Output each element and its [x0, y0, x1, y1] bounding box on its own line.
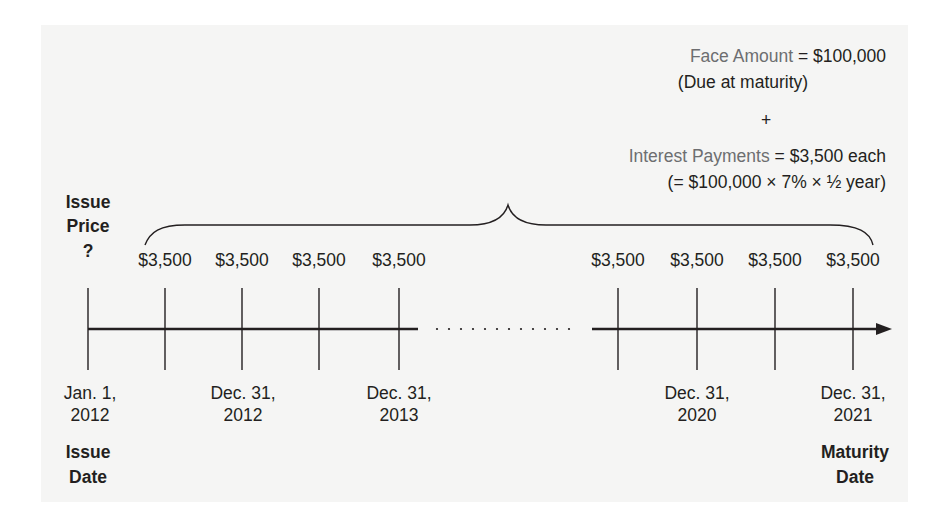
issue-date-label: Issue Date	[66, 441, 111, 488]
date-label-maturity: Dec. 31, 2021	[820, 382, 885, 426]
date-year: 2020	[664, 404, 729, 426]
payment-amount: $3,500	[748, 250, 802, 271]
issue-price-label-1: Issue	[66, 191, 111, 213]
date-year: 2012	[210, 404, 275, 426]
face-amount-line: Face Amount = $100,000	[690, 46, 886, 67]
face-amount-value: = $100,000	[798, 46, 886, 66]
payment-amount: $3,500	[215, 250, 269, 271]
date-year: 2012	[64, 404, 117, 426]
payment-amount: $3,500	[138, 250, 192, 271]
brace-icon	[145, 205, 873, 245]
maturity-date-label: Maturity Date	[821, 441, 889, 488]
date-line: Dec. 31,	[366, 382, 431, 404]
date-line: Dec. 31,	[664, 382, 729, 404]
payment-amount: $3,500	[372, 250, 426, 271]
maturity-date-line1: Maturity	[821, 441, 889, 463]
issue-date-line2: Date	[66, 466, 111, 488]
face-amount-note: (Due at maturity)	[678, 72, 808, 93]
interest-payments-value: = $3,500 each	[775, 146, 886, 166]
arrow-head-icon	[876, 323, 892, 335]
interest-payments-label: Interest Payments	[629, 146, 770, 166]
date-year: 2013	[366, 404, 431, 426]
maturity-date-line2: Date	[821, 466, 889, 488]
date-line: Dec. 31,	[210, 382, 275, 404]
payment-amount: $3,500	[670, 250, 724, 271]
date-line: Dec. 31,	[820, 382, 885, 404]
date-line: Jan. 1,	[64, 382, 117, 404]
issue-date-line1: Issue	[66, 441, 111, 463]
interest-payments-line: Interest Payments = $3,500 each	[629, 146, 886, 167]
issue-price-label-2: Price	[67, 215, 110, 237]
interest-formula: (= $100,000 × 7% × ½ year)	[668, 172, 886, 193]
payment-amount: $3,500	[292, 250, 346, 271]
ellipsis-dots	[436, 328, 570, 330]
date-label-issue: Jan. 1, 2012	[64, 382, 117, 426]
date-label: Dec. 31, 2020	[664, 382, 729, 426]
payment-amount: $3,500	[591, 250, 645, 271]
plus-sign: +	[761, 110, 771, 131]
issue-price-unknown: ?	[83, 240, 94, 262]
date-year: 2021	[820, 404, 885, 426]
face-amount-label: Face Amount	[690, 46, 793, 66]
date-label: Dec. 31, 2012	[210, 382, 275, 426]
payment-amount: $3,500	[826, 250, 880, 271]
date-label: Dec. 31, 2013	[366, 382, 431, 426]
